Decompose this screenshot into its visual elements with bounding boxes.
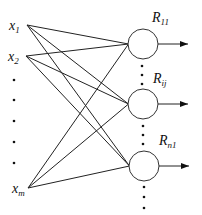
input-ellipsis-dot [13, 79, 16, 82]
output-ellipsis-dot [143, 186, 146, 189]
neuron-R11 [128, 29, 158, 59]
output-ellipsis-dot [142, 125, 145, 128]
ellipsis-dots [13, 65, 146, 210]
output-neurons [128, 29, 189, 181]
edge-xm-Rn1 [28, 166, 130, 188]
output-ellipsis-dot [141, 65, 144, 68]
output-label-R11: R11 [151, 10, 169, 27]
output-label-Rij: Rij [152, 71, 167, 88]
neural-network-diagram: x1 x2 xm R11 Rij Rn1 [0, 0, 202, 215]
output-ellipsis-dot [141, 83, 144, 86]
connection-edges [26, 25, 130, 188]
output-ellipsis-dot [141, 74, 144, 77]
input-label-x1: x1 [8, 18, 20, 35]
output-ellipsis-dot [142, 134, 145, 137]
output-ellipsis-dot [143, 207, 146, 210]
edge-x1-R11 [27, 25, 129, 44]
input-ellipsis-dot [13, 162, 16, 165]
input-label-xm: xm [11, 181, 25, 198]
output-ellipsis-dot [142, 143, 145, 146]
input-ellipsis-dot [13, 141, 16, 144]
neuron-Rn1 [129, 151, 159, 181]
output-label-Rn1: Rn1 [158, 133, 177, 150]
edge-x2-Rn1 [26, 56, 130, 166]
input-label-x2: x2 [7, 49, 19, 66]
neuron-Rij [128, 89, 158, 119]
edge-x2-R11 [26, 44, 129, 56]
input-ellipsis-dot [13, 99, 16, 102]
edge-x1-Rij [27, 25, 129, 104]
output-ellipsis-dot [143, 196, 146, 199]
input-ellipsis-dot [13, 120, 16, 123]
edge-x2-Rij [26, 56, 129, 104]
